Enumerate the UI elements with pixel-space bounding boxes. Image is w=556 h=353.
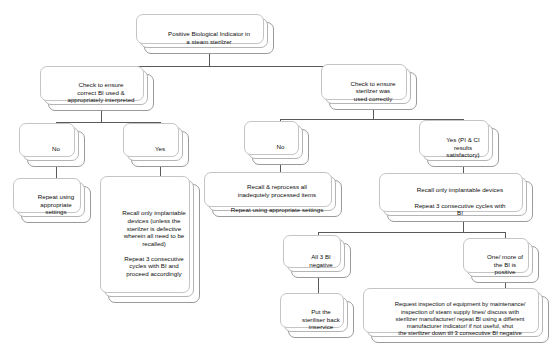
node-sterilizer-no-label: No <box>277 143 285 151</box>
node-bi-no[interactable]: No <box>27 131 85 167</box>
node-request-inspection-of-equipment[interactable]: Request inspection of equipment by maint… <box>371 296 549 343</box>
node-put-back-inservice-label: Put the steriliser back inservice <box>302 308 340 331</box>
node-check-bi-used[interactable]: Check to ensure correct BI used & approp… <box>48 74 154 111</box>
node-repeat-using-appropriate-settings[interactable]: Repeat using appropriate settings <box>21 186 91 223</box>
node-check-sterilizer-used[interactable]: Check to ensure sterilzer was used corre… <box>329 72 417 110</box>
node-repeat-settings-label: Repeat using appropriate settings <box>38 193 74 216</box>
node-check-sterilizer-used-label: Check to ensure sterilzer was used corre… <box>350 80 395 103</box>
node-sterilizer-yes-label: Yes (PI & CI results satisfactory) <box>446 136 479 159</box>
node-bi-yes-label: Yes <box>155 145 165 153</box>
node-recall-implantable-devices-brief[interactable]: Recall only implantable devices Repeat 3… <box>387 181 533 222</box>
node-check-bi-used-label: Check to ensure correct BI used & approp… <box>67 81 134 104</box>
node-all-3-bi-negative-label: All 3 BI negative <box>309 253 332 268</box>
node-one-or-more-bi-positive-label: One/ more of the BI is positive <box>487 253 523 276</box>
node-root-label: Positive Biological Indicator in a steam… <box>168 30 250 45</box>
flowchart-canvas: Positive Biological Indicator in a steam… <box>0 0 556 353</box>
node-recall-reprocess-label: Recall & reprocess all inadequtely proce… <box>231 183 324 213</box>
node-recall-implantable-brief-label: Recall only implantable devices Repeat 3… <box>414 186 505 216</box>
node-recall-implantable-detailed-label: Recall only implantable devices (unless … <box>122 209 186 277</box>
node-recall-implantable-devices-detailed[interactable]: Recall only implantable devices (unless … <box>108 184 200 303</box>
node-all-3-bi-negative[interactable]: All 3 BI negative <box>291 243 351 278</box>
node-sterilizer-yes[interactable]: Yes (PI & CI results satisfactory) <box>427 128 499 167</box>
node-one-or-more-bi-positive[interactable]: One/ more of the BI is positive <box>471 246 539 283</box>
node-bi-yes[interactable]: Yes <box>131 131 189 167</box>
node-recall-reprocess-inadequately-processed[interactable]: Recall & reprocess all inadequtely proce… <box>212 180 342 217</box>
node-bi-no-label: No <box>52 145 60 153</box>
node-sterilizer-no[interactable]: No <box>252 129 309 165</box>
node-root[interactable]: Positive Biological Indicator in a steam… <box>144 22 274 54</box>
node-put-steriliser-back-inservice[interactable]: Put the steriliser back inservice <box>288 301 354 338</box>
node-request-inspection-label: Request inspection of equipment by maint… <box>395 301 526 337</box>
